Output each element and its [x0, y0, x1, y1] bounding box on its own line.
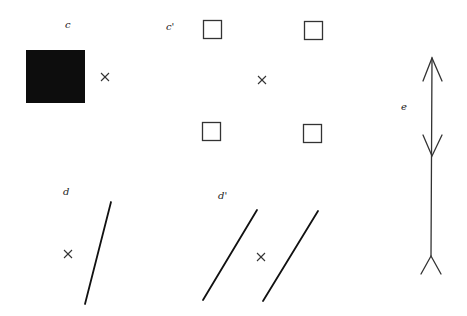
panel-e: e — [401, 58, 442, 274]
label-c: c — [65, 19, 71, 30]
chevron-down-icon — [423, 135, 442, 156]
panel-d: d — [63, 186, 111, 304]
outline-square-bottom-left — [203, 123, 221, 141]
label-d: d — [63, 186, 69, 197]
slanted-line-right — [263, 211, 318, 301]
slanted-line — [85, 202, 111, 304]
figure-canvas: c c' d d' — [0, 0, 467, 316]
label-c-prime: c' — [166, 21, 174, 32]
panel-c-prime: c' — [166, 21, 323, 143]
outline-square-top-right — [305, 22, 323, 40]
cross-icon — [101, 73, 109, 81]
forked-tail-icon — [421, 256, 441, 274]
label-d-prime: d' — [218, 190, 227, 201]
slanted-line-left — [203, 210, 257, 300]
filled-square — [26, 50, 85, 103]
outline-square-bottom-right — [304, 125, 322, 143]
cross-icon — [258, 76, 266, 84]
cross-icon — [257, 253, 265, 261]
label-e: e — [401, 101, 407, 112]
cross-icon — [64, 250, 72, 258]
panel-d-prime: d' — [203, 190, 318, 301]
outline-square-top-left — [204, 21, 222, 39]
panel-c: c — [26, 19, 109, 103]
